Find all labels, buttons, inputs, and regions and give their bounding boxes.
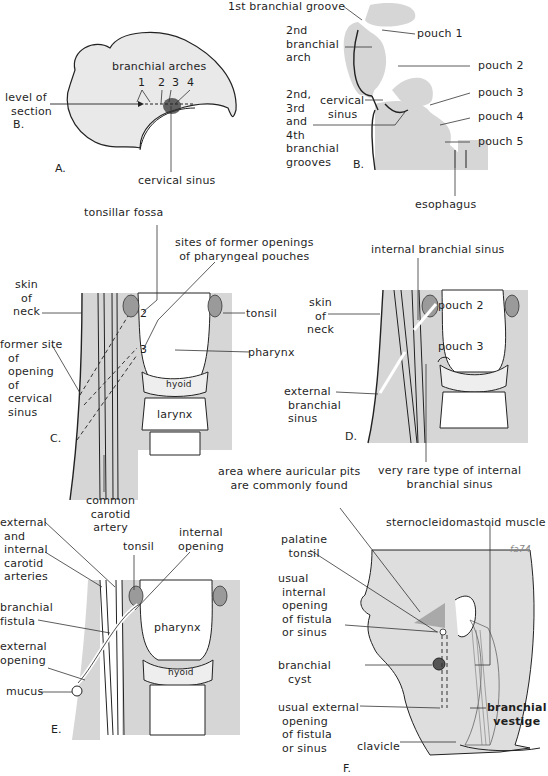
label-arch-3: 3 [172, 76, 179, 90]
label-pouch-3: pouch 3 [478, 86, 524, 100]
label-grooves: 2nd, 3rd and 4th branchial grooves [286, 88, 339, 169]
label-line: of [8, 379, 63, 393]
label-line: of fistula [282, 613, 332, 627]
label-pouch-5: pouch 5 [478, 135, 524, 149]
panel-letter-b: B. [353, 158, 364, 171]
label-line: vestige [487, 715, 547, 729]
label-line: 2nd [286, 24, 339, 38]
label-line: B. [13, 118, 52, 132]
label-usual-external: usual external opening of fistula or sin… [278, 701, 359, 755]
panel-a-embryo [50, 32, 236, 172]
label-branchial-arches: branchial arches [112, 60, 206, 74]
panel-letter-f: F. [343, 762, 351, 775]
label-hyoid-c: hyoid [166, 378, 192, 392]
label-line: branchial [278, 659, 331, 673]
label-internal-opening: internal opening [178, 526, 224, 553]
label-arch-4: 4 [187, 76, 194, 90]
label-palatine-tonsil: palatine tonsil [281, 533, 327, 560]
label-line: branchial sinus [378, 478, 521, 492]
panel-letter-e: E. [51, 723, 61, 736]
label-tonsil-c: tonsil [246, 307, 277, 321]
panel-letter-d: D. [345, 430, 357, 443]
label-former-site: former site of opening of cervical sinus [0, 338, 63, 419]
label-very-rare: very rare type of internal branchial sin… [378, 464, 521, 491]
label-line: usual [278, 572, 332, 586]
label-line: are commonly found [218, 479, 361, 493]
label-tonsillar-fossa: tonsillar fossa [84, 206, 163, 220]
label-line: opening [178, 540, 224, 554]
label-larynx: larynx [157, 408, 193, 422]
label-line: cyst [288, 673, 331, 687]
label-line: or sinus [282, 626, 332, 640]
label-pharynx-e: pharynx [154, 621, 201, 635]
label-esophagus: esophagus [415, 198, 476, 212]
label-line: cervical [8, 392, 63, 406]
label-line: internal [4, 543, 48, 557]
label-line: of fistula [282, 728, 359, 742]
label-cervical-sinus: cervical sinus [138, 174, 216, 188]
label-line: neck [13, 305, 40, 319]
label-tonsil-e: tonsil [123, 540, 154, 554]
label-line: of [8, 352, 63, 366]
label-line: opening [282, 715, 359, 729]
label-line: 3rd [286, 102, 339, 116]
label-second-arch: 2nd branchial arch [286, 24, 339, 65]
label-line: very rare type of internal [378, 464, 521, 478]
label-line: external [284, 385, 341, 399]
panel-letter-c: C. [50, 432, 61, 445]
panel-c-section [42, 225, 250, 500]
label-line: level of [5, 91, 52, 105]
label-pharynx-c: pharynx [248, 346, 295, 360]
label-line: former site [0, 338, 63, 352]
label-line: external [0, 640, 47, 654]
label-line: sinus [288, 412, 341, 426]
label-sternocleidomastoid: sternocleidomastoid muscle [386, 516, 546, 530]
label-line: 2nd, [286, 88, 339, 102]
label-number-3: 3 [140, 343, 147, 357]
label-skin-of-neck-c: skin of neck [13, 278, 40, 319]
label-line: branchial [487, 701, 547, 715]
label-carotid-arteries: external and internal carotid arteries [0, 516, 48, 584]
label-line: palatine [281, 533, 327, 547]
label-line: common [86, 494, 135, 508]
panel-d-section [328, 258, 528, 462]
label-line: and [4, 530, 48, 544]
label-auricular-pits: area where auricular pits are commonly f… [218, 465, 361, 492]
label-line: arch [286, 51, 339, 65]
label-number-2: 2 [140, 307, 147, 321]
panel-letter-a: A. [55, 162, 66, 175]
label-line: fistula [0, 615, 53, 629]
label-line: arteries [4, 570, 48, 584]
label-usual-internal: usual internal opening of fistula or sin… [278, 572, 332, 640]
label-line: sites of former openings [175, 236, 314, 250]
label-line: branchial [288, 399, 341, 413]
label-line: skin [13, 278, 40, 292]
label-line: opening [282, 599, 332, 613]
label-line: of pharyngeal pouches [175, 250, 314, 264]
label-skin-of-neck-d: skin of neck [307, 296, 334, 337]
label-line: section [11, 105, 52, 119]
label-branchial-fistula: branchial fistula [0, 601, 53, 628]
label-line: or sinus [282, 742, 359, 756]
label-line: branchial [286, 38, 339, 52]
label-line: usual external [278, 701, 359, 715]
label-external-sinus: external branchial sinus [284, 385, 341, 426]
label-signature: fa74 [510, 543, 531, 557]
label-arch-1: 1 [138, 76, 145, 90]
label-line: tonsil [281, 547, 327, 561]
label-internal-sinus: internal branchial sinus [371, 243, 505, 257]
panel-e-section [38, 522, 240, 740]
label-first-groove: 1st branchial groove [228, 0, 345, 14]
label-line: opening [8, 365, 63, 379]
label-line: carotid [86, 508, 135, 522]
label-line: and [286, 115, 339, 129]
label-arch-2: 2 [158, 76, 165, 90]
label-line: internal [178, 526, 224, 540]
label-line: neck [307, 323, 334, 337]
label-line: internal [282, 586, 332, 600]
label-line: grooves [286, 156, 339, 170]
label-level-of-section: level of section B. [5, 91, 52, 132]
label-clavicle: clavicle [357, 740, 400, 754]
label-mucus: mucus [6, 685, 43, 699]
label-line: area where auricular pits [218, 465, 361, 479]
